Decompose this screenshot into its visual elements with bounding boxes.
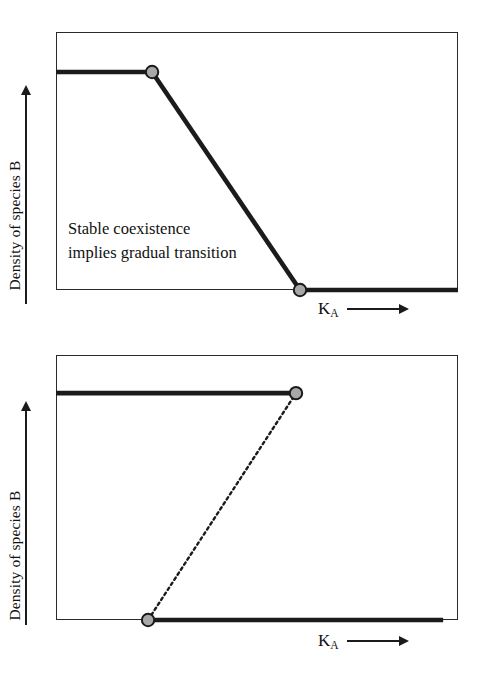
x-axis-label-text-top: KA (318, 300, 339, 317)
bifurcation-figure: Density of species B KA Stable coexisten… (0, 0, 484, 687)
y-axis-arrow-icon (25, 94, 27, 304)
annotation-top-line2: implies gradual transition (68, 241, 237, 265)
y-axis-label-bottom: Density of species B (7, 490, 23, 620)
unstable-coexistence-panel: Density of species B KA Unstable coexist… (0, 330, 484, 687)
y-axis-bottom: Density of species B (14, 355, 44, 620)
x-axis-label-text-bottom: KA (318, 632, 339, 649)
x-axis-label-bottom: KA (318, 632, 401, 649)
y-axis-top: Density of species B (14, 32, 44, 290)
annotation-top: Stable coexistence implies gradual trans… (68, 217, 237, 265)
x-axis-arrow-icon (347, 640, 401, 642)
x-axis-arrow-icon (347, 308, 401, 310)
x-axis-label-top: KA (318, 300, 401, 317)
y-axis-arrow-icon (25, 410, 27, 625)
plot-frame-bottom (56, 355, 458, 620)
stable-coexistence-panel: Density of species B KA Stable coexisten… (0, 0, 484, 340)
y-axis-label-top: Density of species B (7, 160, 23, 290)
annotation-top-line1: Stable coexistence (68, 217, 237, 241)
